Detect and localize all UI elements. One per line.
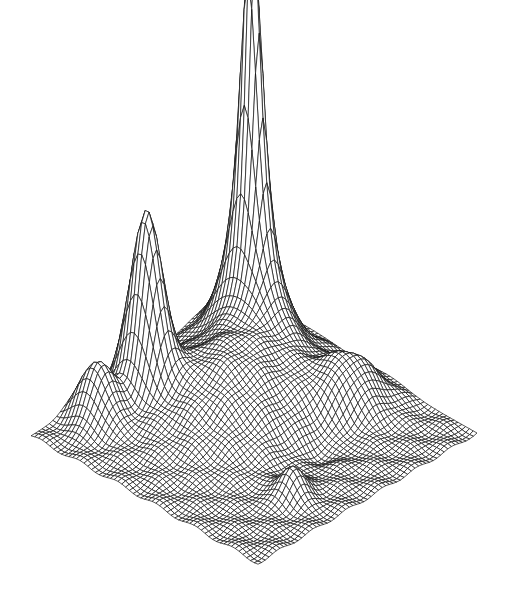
- surface-mesh: [31, 0, 477, 564]
- wireframe-surface-plot: [0, 0, 508, 599]
- surface-plot-figure: [0, 0, 508, 599]
